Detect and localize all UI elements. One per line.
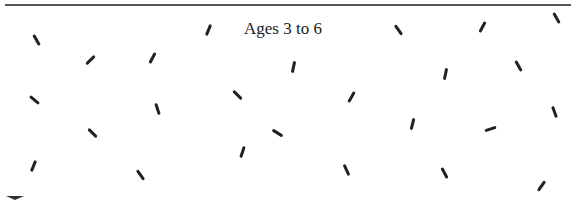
stroke-mark: [135, 169, 144, 181]
stroke-mark: [484, 126, 496, 133]
corner-marker-icon: [6, 196, 24, 200]
stroke-mark: [342, 164, 350, 176]
stroke-mark: [154, 103, 161, 115]
stroke-mark: [478, 21, 486, 33]
ages-panel: Ages 3 to 6: [0, 0, 576, 200]
stroke-mark: [148, 52, 156, 64]
stroke-mark: [393, 24, 402, 36]
stroke-mark: [514, 60, 523, 72]
top-rule-divider: [5, 4, 571, 6]
stroke-mark: [442, 68, 447, 80]
stroke-mark: [232, 90, 243, 101]
stroke-mark: [290, 61, 295, 73]
stroke-mark: [85, 55, 96, 66]
stroke-mark: [204, 24, 211, 36]
stroke-mark: [551, 106, 558, 118]
stroke-mark: [271, 129, 283, 138]
stroke-mark: [552, 12, 561, 24]
stroke-mark: [87, 128, 98, 139]
stroke-mark: [28, 95, 39, 105]
stroke-mark: [536, 180, 545, 192]
stroke-mark: [347, 91, 356, 103]
stroke-mark: [29, 160, 36, 172]
panel-title: Ages 3 to 6: [244, 19, 322, 39]
stroke-mark: [440, 167, 448, 179]
stroke-mark: [239, 146, 246, 158]
stroke-mark: [32, 34, 41, 46]
stroke-mark: [409, 118, 415, 130]
